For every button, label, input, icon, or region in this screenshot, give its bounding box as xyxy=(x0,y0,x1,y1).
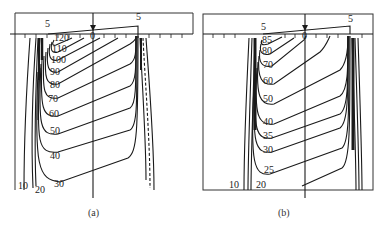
contour-label: 90 xyxy=(50,66,60,77)
contour-label: 60 xyxy=(263,75,273,86)
panel-b-center-label: 0 xyxy=(302,30,307,41)
panel-a-ticks xyxy=(25,34,182,38)
contour-label: 120 xyxy=(54,32,69,43)
contour-label: 60 xyxy=(49,108,59,119)
contour-label: 80 xyxy=(262,45,272,56)
contour-label: 10 xyxy=(229,179,239,190)
panel-b-caption: (b) xyxy=(278,207,290,219)
contour-label: 30 xyxy=(54,178,64,189)
contour-label: 10 xyxy=(18,180,28,191)
contour-label: 80 xyxy=(50,79,60,90)
panel-a-top-left-label: 5 xyxy=(45,18,50,29)
contour-label: 20 xyxy=(35,184,45,195)
panel-b-top-left-label: 5 xyxy=(261,21,266,32)
contour-label: 110 xyxy=(52,43,67,54)
panel-a-contours xyxy=(24,36,154,190)
contour-label: 70 xyxy=(48,93,58,104)
contour-label: 35 xyxy=(263,130,273,141)
contour-label: 40 xyxy=(263,116,273,127)
panel-b: 5 5 0 85 80 70 60 50 40 35 30 25 20 10 (… xyxy=(203,13,373,219)
contour-label: 25 xyxy=(264,164,274,175)
contour-label: 100 xyxy=(51,54,66,65)
panel-a-top-right-label: 5 xyxy=(136,11,141,22)
panel-a-center-label: 0 xyxy=(90,30,95,41)
panel-b-top-right-label: 5 xyxy=(348,13,353,24)
contour-label: 85 xyxy=(262,34,272,45)
contour-label: 70 xyxy=(263,59,273,70)
contour-label: 20 xyxy=(256,179,266,190)
panel-b-contours xyxy=(244,36,362,190)
contour-label: 50 xyxy=(263,93,273,104)
panel-a-caption: (a) xyxy=(88,207,99,219)
contour-label: 50 xyxy=(50,125,60,136)
panel-a: 5 5 0 120 110 100 90 80 70 60 50 40 30 2… xyxy=(10,11,193,219)
figure-canvas: 5 5 0 120 110 100 90 80 70 60 50 40 30 2… xyxy=(0,0,385,230)
contour-label: 40 xyxy=(50,150,60,161)
contour-label: 30 xyxy=(263,144,273,155)
panel-b-ticks xyxy=(213,34,362,38)
